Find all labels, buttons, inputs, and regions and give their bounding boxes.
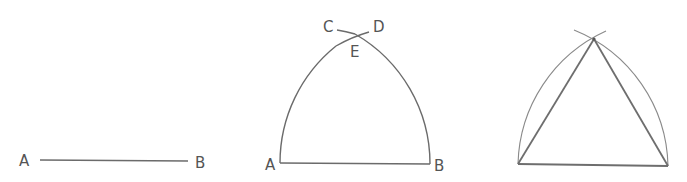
panel-2-arc-from-a-lower: [355, 34, 430, 164]
panel-2-label-d: D: [373, 18, 385, 36]
panel-3-arc-from-b: [518, 31, 606, 164]
panel-2-label-e: E: [350, 43, 359, 61]
panel-3-apex-point: [592, 37, 595, 40]
panel-2-segment-ab: [280, 163, 430, 164]
panel-2-arc-from-a-upper: [337, 30, 355, 34]
panel-2-label-a: A: [265, 156, 276, 174]
panel-2-arcs: A B C D E: [265, 18, 444, 175]
panel-1-label-a: A: [19, 152, 30, 170]
panel-1-label-b: B: [195, 154, 205, 172]
panel-3-side-ab: [518, 164, 668, 166]
panel-1-segment-ab: [40, 160, 188, 161]
panel-2-label-b: B: [434, 157, 444, 175]
panel-3-side-be: [594, 39, 668, 166]
panel-2-arc-from-b-lower: [280, 46, 336, 163]
panel-3-triangle: [518, 30, 668, 166]
panel-2-label-c: C: [323, 18, 333, 36]
panel-3-side-ae: [518, 39, 594, 164]
construction-figure: A B A B C D E: [0, 0, 687, 182]
panel-1-segment: A B: [19, 152, 205, 172]
